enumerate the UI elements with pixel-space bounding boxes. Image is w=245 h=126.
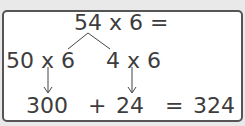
plus-sign: + — [88, 95, 106, 117]
right-branch: 4 x 6 — [106, 50, 161, 72]
left-branch: 50 x 6 — [6, 50, 75, 72]
total: 324 — [193, 95, 235, 117]
result-right: 24 — [116, 95, 144, 117]
top-expression: 54 x 6 = — [74, 12, 168, 34]
result-left: 300 — [26, 95, 68, 117]
equals-sign: = — [165, 95, 183, 117]
